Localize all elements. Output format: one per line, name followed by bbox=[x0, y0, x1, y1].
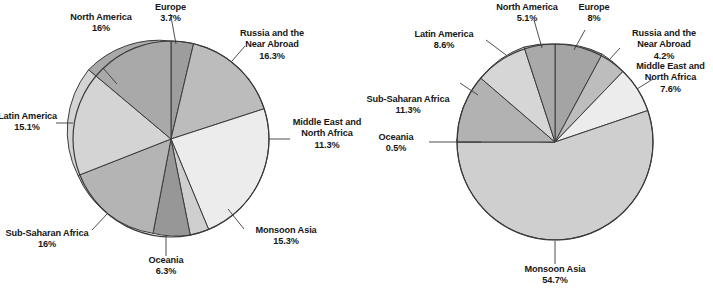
label-oceania: Oceania 0.5% bbox=[364, 132, 428, 155]
label-sub-saharan-africa: Sub-Saharan Africa 16% bbox=[0, 228, 96, 251]
label-russia-near-abroad: Russia and the Near Abroad 4.2% bbox=[618, 28, 710, 62]
label-oceania: Oceania 6.3% bbox=[126, 255, 206, 278]
leader-latam bbox=[486, 40, 506, 55]
right-pie-slices bbox=[457, 44, 653, 240]
label-russia-near-abroad: Russia and the Near Abroad 16.3% bbox=[214, 28, 330, 62]
label-monsoon-asia: Monsoon Asia 54.7% bbox=[507, 264, 603, 287]
two-pie-chart-figure: Europe 3.7% Russia and the Near Abroad 1… bbox=[0, 0, 713, 290]
label-latin-america: Latin America 15.1% bbox=[0, 111, 56, 134]
left-pie-slices bbox=[67, 40, 269, 237]
label-north-america: North America 16% bbox=[48, 12, 154, 35]
right-pie-chart-panel: North America 5.1% Europe 8% Russia and … bbox=[356, 0, 713, 290]
label-monsoon-asia: Monsoon Asia 15.3% bbox=[238, 225, 334, 248]
label-latin-america: Latin America 8.6% bbox=[402, 29, 486, 52]
label-sub-saharan-africa: Sub-Saharan Africa 11.3% bbox=[356, 94, 460, 117]
left-pie-chart-panel: Europe 3.7% Russia and the Near Abroad 1… bbox=[0, 0, 356, 290]
label-middle-east-north-africa: Middle East and North Africa 7.6% bbox=[628, 61, 713, 95]
label-europe: Europe 8% bbox=[563, 2, 625, 25]
